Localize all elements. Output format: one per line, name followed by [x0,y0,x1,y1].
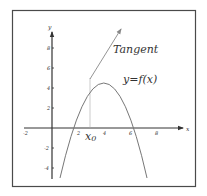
x-tick-6: 6 [129,130,133,136]
x-tick-8: 8 [155,130,158,136]
x0-label: x0 [85,130,96,143]
x-axis-label: x [186,125,190,132]
x0-label-sub: 0 [91,134,96,143]
y-tick-2: 2 [46,105,50,111]
y-axis-label: y [47,23,52,31]
tangent-label: Tangent [113,43,159,56]
x-tick-neg2: -2 [23,130,28,136]
curve-label-arg: (x) [143,73,158,86]
curve-label-eq: = [129,73,138,86]
y-tick-8: 8 [47,45,50,51]
x-tick-4: 4 [102,130,106,136]
x-tick-2: 2 [76,130,80,136]
y-tick-4: 4 [46,85,50,91]
y-tick-neg4: -4 [44,165,49,171]
y-tick-neg2: -2 [44,145,49,151]
y-tick-6: 6 [47,65,51,71]
figure-frame [13,11,196,187]
tangent-diagram: y x 8 6 4 2 -2 -4 -2 2 4 6 8 Tangent y=f… [0,0,207,196]
curve-label: y=f(x) [122,73,157,86]
